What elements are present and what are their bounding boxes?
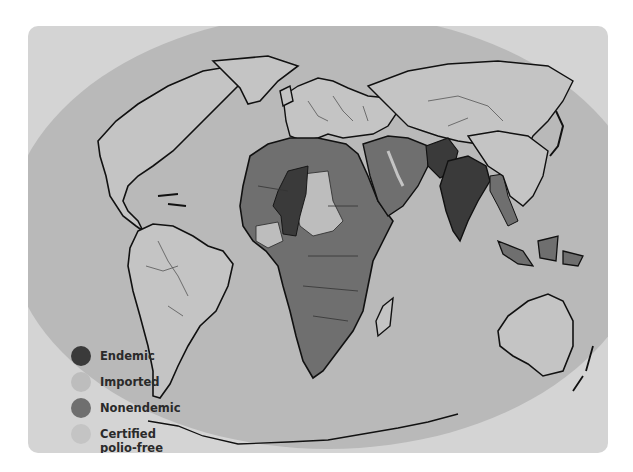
legend-label: Endemic xyxy=(100,346,155,363)
legend-item-nonendemic: Nonendemic xyxy=(71,398,180,424)
legend-label: Nonendemic xyxy=(100,398,180,415)
certified-swatch-icon xyxy=(71,424,91,444)
legend-label: Imported xyxy=(100,372,160,389)
legend-item-imported: Imported xyxy=(71,372,180,398)
legend: Endemic Imported Nonendemic Certified po… xyxy=(71,346,180,450)
nonendemic-swatch-icon xyxy=(71,398,91,418)
legend-label: Certified polio-free xyxy=(100,424,170,453)
map-panel: Endemic Imported Nonendemic Certified po… xyxy=(28,26,608,453)
legend-item-certified-polio-free: Certified polio-free xyxy=(71,424,180,450)
imported-swatch-icon xyxy=(71,372,91,392)
endemic-swatch-icon xyxy=(71,346,91,366)
legend-item-endemic: Endemic xyxy=(71,346,180,372)
